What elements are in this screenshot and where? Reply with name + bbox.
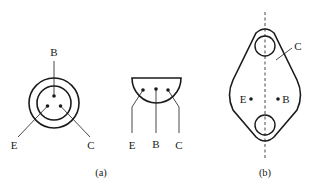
label-c: C: [87, 139, 94, 151]
label-e: E: [11, 139, 18, 151]
collector-leader-line: [276, 48, 292, 60]
label-b: B: [50, 46, 57, 58]
transistor-pinout-figure: B E C E B C (a): [0, 0, 317, 187]
to3-power-transistor: C E B: [230, 12, 302, 159]
label-c: C: [294, 40, 301, 52]
lead-c: [61, 106, 91, 137]
label-b: B: [282, 93, 289, 105]
pin-b-dot: [276, 97, 280, 101]
round-can-transistor: B E C: [11, 46, 95, 151]
label-c: C: [175, 139, 182, 151]
lead-e: [132, 90, 143, 133]
pin-e-dot: [249, 97, 253, 101]
caption-b: (b): [259, 167, 272, 179]
lead-e: [18, 106, 48, 137]
half-round-transistor: E B C: [129, 78, 183, 151]
caption-a: (a): [95, 167, 107, 179]
label-e: E: [240, 93, 247, 105]
label-e: E: [129, 139, 136, 151]
label-b: B: [152, 138, 159, 150]
figure-canvas: B E C E B C (a): [0, 0, 317, 187]
